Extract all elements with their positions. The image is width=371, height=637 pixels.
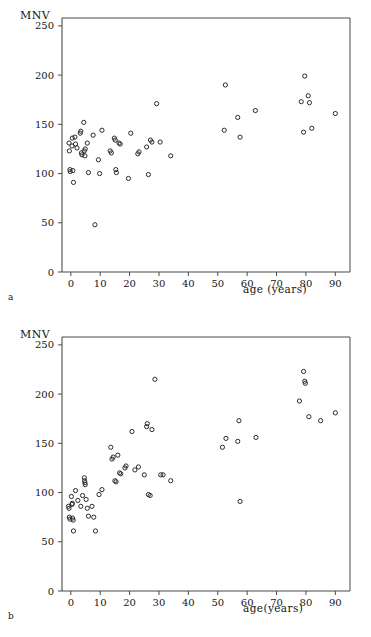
y-tick-label: 0 (48, 586, 54, 597)
data-point (310, 126, 314, 130)
data-point (223, 83, 227, 87)
data-point (126, 176, 130, 180)
data-points (67, 74, 337, 227)
data-point (75, 146, 79, 150)
data-point (98, 171, 102, 175)
panel-label-a: a (8, 292, 13, 302)
data-points (66, 369, 337, 533)
data-point (158, 140, 162, 144)
data-point (169, 154, 173, 158)
data-point (114, 480, 118, 484)
data-point (307, 415, 311, 419)
x-axis-title-b: age(years) (243, 602, 303, 614)
data-point (236, 439, 240, 443)
x-tick-label: 30 (153, 278, 166, 289)
x-tick-label: 0 (68, 597, 74, 608)
data-point (97, 492, 101, 496)
data-point (306, 94, 310, 98)
data-point (301, 369, 305, 373)
data-point (71, 529, 75, 533)
panel-label-b: b (8, 611, 14, 621)
data-point (93, 529, 97, 533)
y-axis-title-b: MNV (20, 328, 50, 341)
data-point (85, 141, 89, 145)
data-point (67, 149, 71, 153)
x-tick-label: 10 (94, 597, 107, 608)
y-tick-label: 200 (35, 389, 54, 400)
data-point (303, 74, 307, 78)
y-tick-label: 150 (35, 438, 54, 449)
data-point (222, 128, 226, 132)
data-point (224, 436, 228, 440)
y-tick-label: 200 (35, 70, 54, 81)
data-point (96, 158, 100, 162)
data-point (93, 223, 97, 227)
data-point (319, 419, 323, 423)
data-point (146, 172, 150, 176)
data-point (155, 102, 159, 106)
data-point (80, 493, 84, 497)
data-point (307, 101, 311, 105)
data-point (86, 170, 90, 174)
data-point (91, 133, 95, 137)
panel-a: 0501001502002500102030405060708090 MNV a… (0, 0, 371, 318)
data-point (299, 100, 303, 104)
data-point (100, 488, 104, 492)
data-point (130, 429, 134, 433)
x-tick-label: 20 (123, 597, 136, 608)
data-point (220, 445, 224, 449)
scatter-plot-b: 0501001502002500102030405060708090 (0, 319, 371, 637)
data-point (142, 473, 146, 477)
x-tick-label: 0 (68, 278, 74, 289)
data-point (145, 145, 149, 149)
data-point (90, 504, 94, 508)
data-point (118, 142, 122, 146)
data-point (333, 411, 337, 415)
figure-container: 0501001502002500102030405060708090 MNV a… (0, 0, 371, 637)
y-tick-label: 100 (35, 168, 54, 179)
data-point (119, 472, 123, 476)
y-tick-label: 250 (35, 339, 54, 350)
data-point (79, 504, 83, 508)
y-tick-label: 250 (35, 20, 54, 31)
data-point (76, 498, 80, 502)
y-axis-title-a: MNV (20, 9, 50, 22)
x-tick-label: 40 (182, 278, 195, 289)
x-axis-title-a: age (years) (243, 283, 307, 295)
data-point (71, 180, 75, 184)
x-tick-label: 20 (123, 278, 136, 289)
data-point (136, 465, 140, 469)
x-tick-label: 10 (94, 278, 107, 289)
x-tick-label: 90 (329, 597, 342, 608)
x-tick-label: 50 (211, 597, 224, 608)
data-point (238, 499, 242, 503)
data-point (109, 445, 113, 449)
data-point (73, 488, 77, 492)
data-point (86, 514, 90, 518)
data-point (150, 427, 154, 431)
data-point (85, 506, 89, 510)
data-point (129, 131, 133, 135)
y-tick-label: 0 (48, 267, 54, 278)
data-point (82, 120, 86, 124)
data-point (145, 422, 149, 426)
data-point (301, 130, 305, 134)
data-point (254, 435, 258, 439)
data-point (169, 479, 173, 483)
panel-b: 0501001502002500102030405060708090 MNV a… (0, 319, 371, 637)
data-point (100, 128, 104, 132)
data-point (70, 136, 74, 140)
data-point (69, 494, 73, 498)
data-point (297, 399, 301, 403)
data-point (84, 497, 88, 501)
data-point (73, 135, 77, 139)
x-tick-label: 50 (211, 278, 224, 289)
y-tick-label: 50 (41, 217, 54, 228)
data-point (92, 515, 96, 519)
data-point (236, 115, 240, 119)
data-point (237, 419, 241, 423)
data-point (116, 453, 120, 457)
x-tick-label: 40 (182, 597, 195, 608)
y-tick-label: 100 (35, 487, 54, 498)
x-tick-label: 90 (329, 278, 342, 289)
